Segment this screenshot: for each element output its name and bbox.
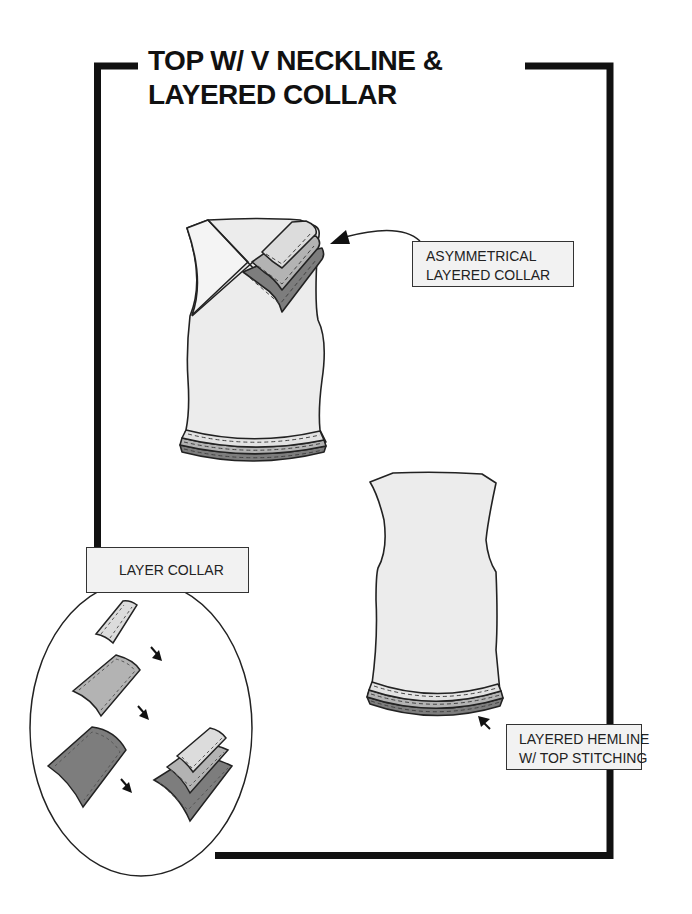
layered-hemline-label-line-2: W/ TOP STITCHING: [519, 749, 641, 768]
layered-hemline-arrow: [478, 716, 490, 729]
frame-left-top: [98, 66, 139, 550]
asymmetrical-collar-arrow: [330, 230, 420, 244]
title-line-2: LAYERED COLLAR: [148, 78, 548, 112]
fashion-diagram-canvas: [0, 0, 692, 914]
asymmetrical-collar-label-line-2: LAYERED COLLAR: [426, 266, 573, 285]
title-line-1: TOP W/ V NECKLINE &: [140, 44, 450, 78]
layer-collar-detail: [30, 580, 252, 876]
layered-hemline-label-line-1: LAYERED HEMLINE: [519, 730, 641, 749]
front-top-illustration: [180, 219, 326, 462]
layer-collar-label-text: LAYER COLLAR: [119, 561, 248, 580]
layer-collar-label: LAYER COLLAR: [86, 547, 249, 593]
asymmetrical-collar-label: ASYMMETRICAL LAYERED COLLAR: [412, 241, 574, 287]
back-top-body: [368, 472, 500, 704]
layered-hemline-label: LAYERED HEMLINE W/ TOP STITCHING: [506, 724, 642, 770]
asymmetrical-collar-label-line-1: ASYMMETRICAL: [426, 247, 573, 266]
detail-oval: [30, 580, 252, 876]
back-top-illustration: [367, 472, 503, 715]
page-title: TOP W/ V NECKLINE & LAYERED COLLAR: [148, 44, 548, 112]
